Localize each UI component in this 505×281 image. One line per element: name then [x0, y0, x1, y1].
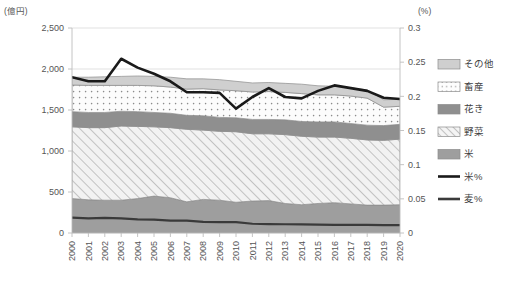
x-tick-label: 2012 — [264, 241, 274, 261]
x-tick-label: 2017 — [346, 241, 356, 261]
x-tick-label: 2004 — [133, 241, 143, 261]
legend-item-畜産[interactable]: 畜産 — [438, 81, 484, 92]
y-tick-label-left: 0 — [59, 228, 64, 238]
y-tick-label-right: 0.1 — [408, 160, 421, 170]
legend-item-野菜[interactable]: 野菜 — [438, 126, 484, 137]
legend-label-米%: 米% — [464, 171, 483, 182]
legend-swatch-その他 — [438, 60, 460, 70]
legend-item-米%[interactable]: 米% — [438, 171, 483, 182]
legend-label-麦%: 麦% — [464, 193, 483, 204]
x-tick-label: 2005 — [149, 241, 159, 261]
y-axis-right-ticks: 00.050.10.150.20.250.3 — [400, 23, 426, 238]
legend-item-その他[interactable]: その他 — [438, 58, 494, 69]
x-tick-label: 2016 — [330, 241, 340, 261]
y-tick-label-right: 0.3 — [408, 23, 421, 33]
legend-swatch-畜産 — [438, 82, 460, 92]
x-tick-label: 2019 — [379, 241, 389, 261]
x-tick-label: 2000 — [67, 241, 77, 261]
x-tick-label: 2018 — [362, 241, 372, 261]
chart-container: (億円) (%) 05001,0001,5002,0002,500 00.050… — [0, 0, 505, 281]
legend-swatch-米 — [438, 150, 460, 160]
legend-item-麦%[interactable]: 麦% — [438, 193, 483, 204]
legend-swatch-花き — [438, 105, 460, 115]
left-axis-unit-text: (億円) — [4, 6, 28, 16]
left-axis-unit-label: (億円) — [4, 6, 28, 16]
y-tick-label-left: 1,500 — [41, 105, 64, 115]
x-tick-label: 2003 — [116, 241, 126, 261]
legend-swatch-野菜 — [438, 127, 460, 137]
y-axis-left-ticks: 05001,0001,5002,0002,500 — [41, 23, 72, 238]
legend-item-米[interactable]: 米 — [438, 148, 474, 159]
y-tick-label-right: 0 — [408, 228, 413, 238]
legend-label-野菜: 野菜 — [464, 126, 484, 137]
x-tick-label: 2015 — [313, 241, 323, 261]
y-tick-label-left: 2,000 — [41, 64, 64, 74]
legend-label-その他: その他 — [464, 58, 494, 69]
x-tick-label: 2001 — [84, 241, 94, 261]
x-tick-label: 2020 — [395, 241, 405, 261]
y-tick-label-left: 1,000 — [41, 146, 64, 156]
x-axis-ticks: 2000200120022003200420052006200720082009… — [67, 233, 405, 261]
x-tick-label: 2008 — [198, 241, 208, 261]
y-tick-label-left: 2,500 — [41, 23, 64, 33]
legend-label-花き: 花き — [464, 103, 484, 114]
x-tick-label: 2010 — [231, 241, 241, 261]
x-tick-label: 2009 — [215, 241, 225, 261]
y-tick-label-right: 0.2 — [408, 92, 421, 102]
x-tick-label: 2002 — [100, 241, 110, 261]
right-axis-unit-text: (%) — [418, 6, 431, 16]
x-tick-label: 2006 — [166, 241, 176, 261]
x-tick-label: 2007 — [182, 241, 192, 261]
y-tick-label-right: 0.05 — [408, 194, 426, 204]
stacked-area-chart: (億円) (%) 05001,0001,5002,0002,500 00.050… — [0, 0, 505, 281]
x-tick-label: 2011 — [248, 241, 258, 260]
legend-item-花き[interactable]: 花き — [438, 103, 484, 114]
legend-label-米: 米 — [464, 148, 474, 159]
x-tick-label: 2013 — [280, 241, 290, 261]
y-tick-label-right: 0.25 — [408, 57, 426, 67]
x-tick-label: 2014 — [297, 241, 307, 261]
right-axis-unit-label: (%) — [418, 6, 431, 16]
stacked-areas — [72, 76, 400, 233]
legend-label-畜産: 畜産 — [464, 81, 484, 92]
y-tick-label-left: 500 — [49, 187, 64, 197]
chart-legend: その他畜産花き野菜米米%麦% — [438, 58, 494, 204]
y-tick-label-right: 0.15 — [408, 126, 426, 136]
